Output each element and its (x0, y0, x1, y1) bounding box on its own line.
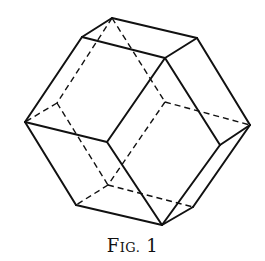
caption-number: 1 (146, 235, 158, 256)
caption-prefix-big: F (107, 235, 120, 256)
polyhedron-figure (0, 0, 265, 235)
figure-caption: FIG. 1 (0, 235, 265, 256)
visible-edges (25, 18, 250, 225)
caption-prefix-small: IG. (120, 240, 141, 255)
